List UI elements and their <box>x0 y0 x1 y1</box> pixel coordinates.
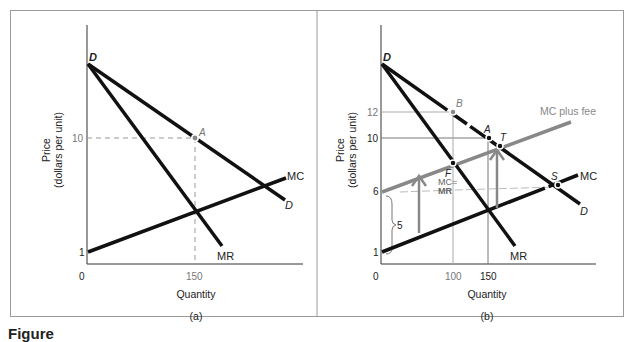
label-s: S <box>551 171 558 182</box>
label-a: A <box>198 127 206 138</box>
point-t <box>497 143 503 149</box>
label-mc: MC <box>287 170 304 182</box>
tick-0: 0 <box>373 271 379 282</box>
y-axis-label-line1: Price <box>334 138 346 162</box>
panel-a: D D MR MC A 10 1 0 150 Quantity (a) Pric… <box>40 25 304 322</box>
y-axis-label-line2: (dollars per unit) <box>346 112 358 188</box>
mc-curve <box>88 178 286 252</box>
x-axis-label: Quantity <box>467 288 507 300</box>
tick-1: 1 <box>373 247 379 258</box>
figure-caption: Figure <box>8 326 54 341</box>
label-mr: MR <box>217 250 234 262</box>
label-b: B <box>456 98 463 109</box>
point-s <box>555 182 561 188</box>
tick-100: 100 <box>445 271 462 282</box>
tick-12: 12 <box>367 107 379 118</box>
mc-curve <box>382 175 578 252</box>
point-a <box>486 135 492 141</box>
point-f <box>450 160 456 166</box>
label-mc: MC <box>580 170 597 182</box>
tick-10: 10 <box>367 133 379 144</box>
panel-label-a: (a) <box>190 310 203 322</box>
demand-curve <box>382 64 580 204</box>
point-a <box>192 135 198 141</box>
point-b <box>450 109 456 115</box>
label-d-end: D <box>285 199 293 211</box>
label-mr: MR <box>510 250 527 262</box>
tick-1: 1 <box>79 247 85 258</box>
hand-note-bottom: MR <box>438 186 452 196</box>
y-axis-label-line1: Price <box>40 138 52 162</box>
mr-curve <box>382 64 515 246</box>
panel-b: 5 D D MR MC MC plus fee B A T F S MC= MR <box>334 25 597 322</box>
tick-150: 150 <box>186 271 203 282</box>
tick-0: 0 <box>79 271 85 282</box>
tick-10: 10 <box>72 133 84 144</box>
tick-6: 6 <box>373 186 379 197</box>
tick-150: 150 <box>480 271 497 282</box>
y-axis-label-line2: (dollars per unit) <box>52 112 64 188</box>
mr-curve <box>88 64 222 246</box>
label-mc-plus-fee: MC plus fee <box>540 105 596 117</box>
label-a: A <box>483 124 491 135</box>
label-d-top: D <box>383 51 391 63</box>
panel-label-b: (b) <box>481 310 494 322</box>
label-d-top: D <box>89 51 97 63</box>
demand-curve <box>88 64 285 200</box>
label-5: 5 <box>397 220 403 231</box>
label-d-end: D <box>580 205 588 217</box>
x-axis-label: Quantity <box>176 288 216 300</box>
label-t: T <box>500 132 507 143</box>
